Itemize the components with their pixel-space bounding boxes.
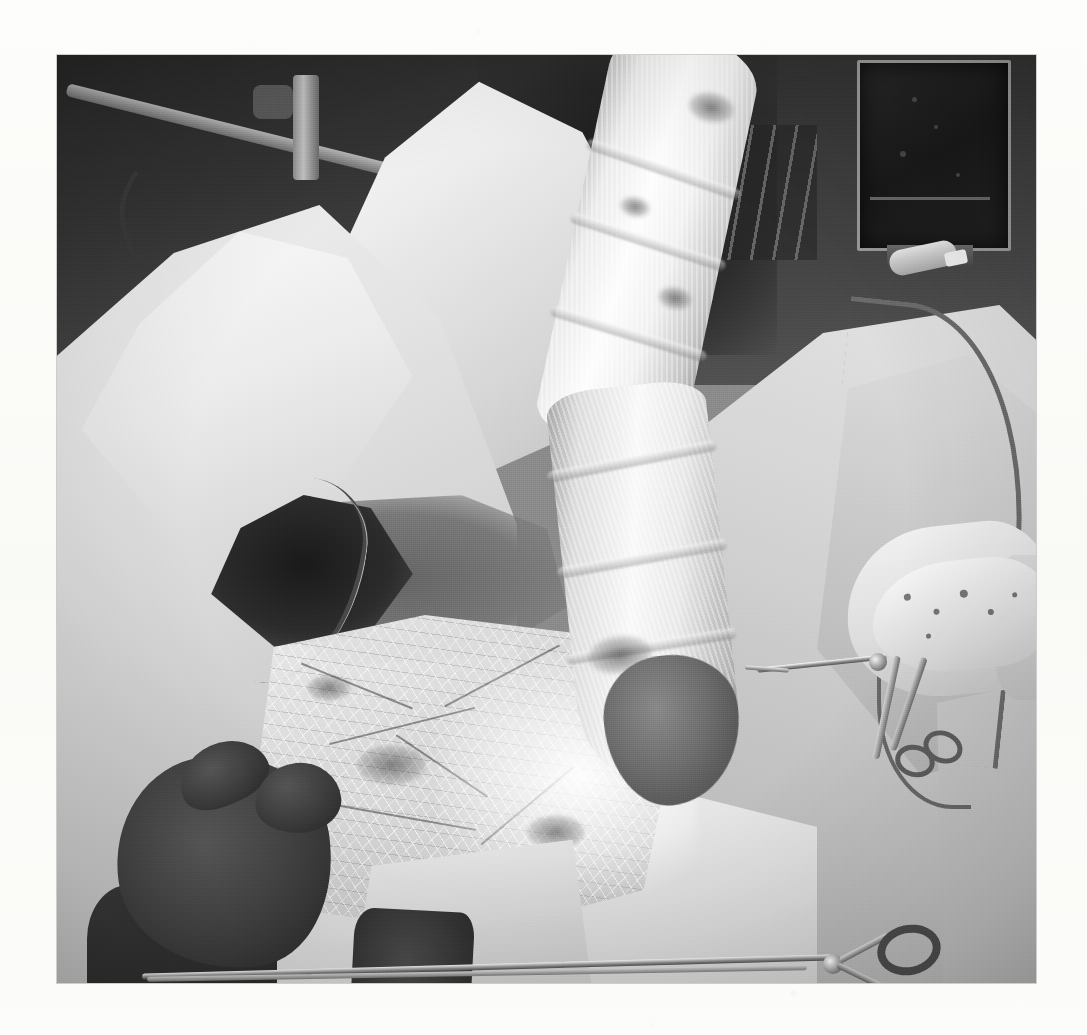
field-stain-c: [307, 675, 351, 701]
scanned-page: [0, 0, 1087, 1035]
field-stain-a: [357, 745, 427, 785]
intraoperative-surgical-photograph: [57, 55, 1036, 983]
or-monitor-icon: [857, 60, 1011, 251]
surgical-clamp-hinge: [869, 653, 887, 671]
